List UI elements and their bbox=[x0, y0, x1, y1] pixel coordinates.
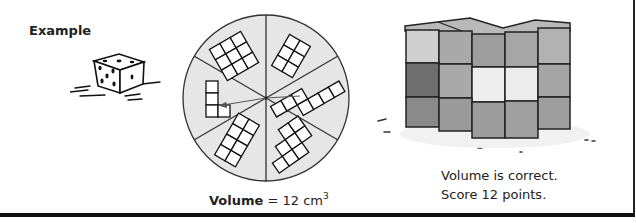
cube-model-illustration bbox=[370, 6, 630, 170]
volume-exponent: 3 bbox=[323, 191, 329, 201]
result-line-2: Score 12 points. bbox=[441, 185, 558, 204]
result-line-1: Volume is correct. bbox=[441, 166, 558, 185]
volume-word: Volume bbox=[209, 193, 263, 208]
example-heading: Example bbox=[29, 23, 91, 38]
result-text: Volume is correct. Score 12 points. bbox=[441, 166, 558, 204]
shape-spinner[interactable] bbox=[180, 8, 360, 192]
volume-label: Volume = 12 cm3 bbox=[209, 191, 329, 208]
die-icon bbox=[70, 48, 165, 112]
volume-value: = 12 cm bbox=[263, 193, 323, 208]
